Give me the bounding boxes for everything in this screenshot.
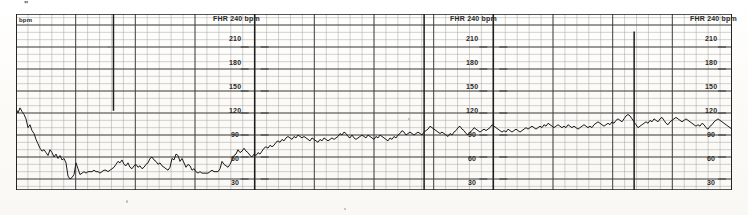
scan-speck bbox=[126, 200, 128, 203]
fhr-chart-svg bbox=[16, 14, 732, 190]
ctg-strip-scan: " bpm FHR 240 bpm FHR 240 bpm FHR 240 bp… bbox=[0, 0, 748, 215]
scan-speck bbox=[344, 208, 346, 210]
scan-artifact-mark: " bbox=[24, 0, 28, 9]
fhr-chart-plate bbox=[16, 14, 732, 190]
